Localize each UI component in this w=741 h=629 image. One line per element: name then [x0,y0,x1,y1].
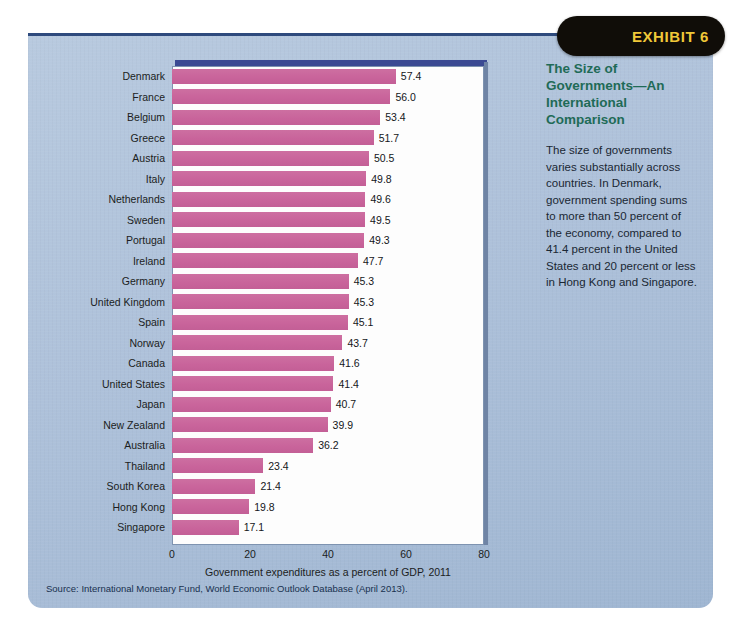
bar: 49.8 [172,171,366,186]
bar-container: 56.0 [172,89,390,104]
bar: 50.5 [172,151,369,166]
bar-container: 41.4 [172,376,333,391]
bar-value-label: 39.9 [333,419,353,431]
bar-row: South Korea21.4 [0,476,741,497]
bar-container: 41.6 [172,356,334,371]
bar-value-label: 40.7 [336,398,356,410]
bar-container: 49.6 [172,192,365,207]
bar-category-label: Sweden [0,214,165,226]
bar-container: 23.4 [172,458,263,473]
bar: 47.7 [172,253,358,268]
bar-container: 21.4 [172,479,255,494]
bar-container: 49.5 [172,212,365,227]
bar-value-label: 23.4 [268,460,288,472]
bar-row: Singapore17.1 [0,517,741,538]
bar-category-label: Singapore [0,521,165,533]
x-axis-tick: 40 [322,548,334,560]
bar-value-label: 43.7 [347,337,367,349]
bar-value-label: 56.0 [395,91,415,103]
bar-value-label: 50.5 [374,152,394,164]
bar: 40.7 [172,397,331,412]
bar-value-label: 49.6 [370,193,390,205]
bar-category-label: France [0,91,165,103]
bar-row: Norway43.7 [0,333,741,354]
bar-category-label: Germany [0,275,165,287]
sidebar-title: The Size of Governments—An International… [546,60,698,128]
bar-container: 50.5 [172,151,369,166]
bar-category-label: Canada [0,357,165,369]
bar-row: United Kingdom45.3 [0,292,741,313]
bar-container: 17.1 [172,520,239,535]
bar-value-label: 17.1 [244,521,264,533]
bar: 45.3 [172,274,349,289]
bar-category-label: Belgium [0,111,165,123]
bar: 21.4 [172,479,255,494]
bar: 51.7 [172,130,374,145]
bar: 36.2 [172,438,313,453]
bar-container: 47.7 [172,253,358,268]
bar: 43.7 [172,335,342,350]
bar: 49.5 [172,212,365,227]
bar-container: 19.8 [172,499,249,514]
bar-value-label: 45.3 [354,275,374,287]
bar-value-label: 19.8 [254,501,274,513]
bar-row: Spain45.1 [0,312,741,333]
bar-category-label: Greece [0,132,165,144]
bar-row: Canada41.6 [0,353,741,374]
bar-value-label: 41.6 [339,357,359,369]
bar-container: 45.1 [172,315,348,330]
exhibit-tab: EXHIBIT 6 [557,16,725,56]
bar: 49.6 [172,192,365,207]
bar-container: 45.3 [172,294,349,309]
bar-category-label: Netherlands [0,193,165,205]
exhibit-tab-label: EXHIBIT 6 [632,28,709,45]
bar-container: 43.7 [172,335,342,350]
bar-row: New Zealand39.9 [0,415,741,436]
bar-row: Thailand23.4 [0,456,741,477]
bar-container: 57.4 [172,69,396,84]
bar-category-label: Australia [0,439,165,451]
bar: 45.1 [172,315,348,330]
sidebar-callout: The Size of Governments—An International… [546,60,698,291]
x-axis-tick: 80 [478,548,490,560]
bar-category-label: Austria [0,152,165,164]
bar: 53.4 [172,110,380,125]
bar-value-label: 36.2 [318,439,338,451]
bar-value-label: 51.7 [379,132,399,144]
bar-value-label: 21.4 [260,480,280,492]
bar: 49.3 [172,233,364,248]
x-axis-tick: 0 [169,548,175,560]
bar: 56.0 [172,89,390,104]
x-axis-tick: 60 [400,548,412,560]
bar-category-label: Ireland [0,255,165,267]
bar: 41.6 [172,356,334,371]
sidebar-body: The size of governments varies substanti… [546,142,698,291]
bar-container: 49.3 [172,233,364,248]
x-axis: Government expenditures as a percent of … [0,548,741,588]
bar-value-label: 45.1 [353,316,373,328]
bar: 57.4 [172,69,396,84]
bar: 23.4 [172,458,263,473]
bar-container: 36.2 [172,438,313,453]
x-axis-label: Government expenditures as a percent of … [172,566,484,578]
bar-value-label: 41.4 [338,378,358,390]
bar: 19.8 [172,499,249,514]
bar-category-label: Italy [0,173,165,185]
bar-category-label: Denmark [0,70,165,82]
bar-row: Japan40.7 [0,394,741,415]
bar-category-label: United States [0,378,165,390]
bar-category-label: United Kingdom [0,296,165,308]
bar-value-label: 47.7 [363,255,383,267]
bar-row: Australia36.2 [0,435,741,456]
bar-value-label: 53.4 [385,111,405,123]
bar-container: 49.8 [172,171,366,186]
bar-container: 53.4 [172,110,380,125]
bar-category-label: Hong Kong [0,501,165,513]
bar-category-label: Portugal [0,234,165,246]
bar-category-label: Norway [0,337,165,349]
source-note: Source: International Monetary Fund, Wor… [46,583,408,594]
bar-value-label: 45.3 [354,296,374,308]
bar-value-label: 49.8 [371,173,391,185]
bar-category-label: South Korea [0,480,165,492]
bar-value-label: 49.5 [370,214,390,226]
